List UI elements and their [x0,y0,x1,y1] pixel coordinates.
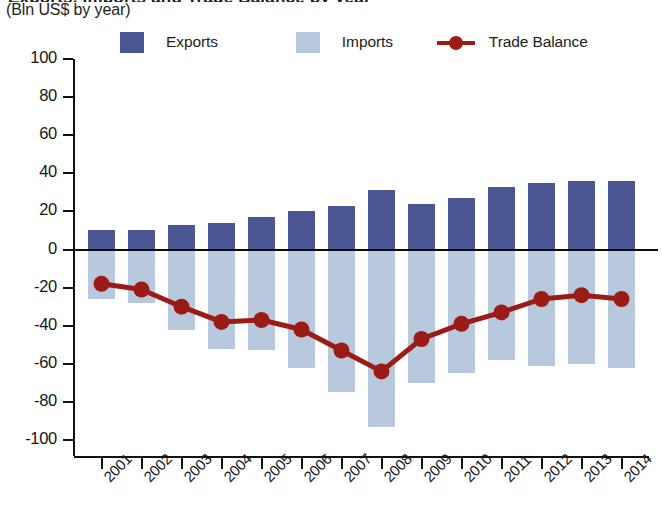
trade-balance-point[interactable] [294,322,310,338]
legend-item-exports[interactable]: Exports [120,32,218,53]
trade-balance-point[interactable] [534,291,550,307]
chart-root: Exports, Imports and Trade Balance by ye… [0,0,662,507]
x-axis-tick [421,458,423,469]
trade-balance-point[interactable] [374,363,390,379]
trade-balance-point[interactable] [494,304,510,320]
chart-subtitle: (Bln US$ by year) [6,1,131,19]
chart-legend: ExportsImportsTrade Balance [120,30,588,54]
x-axis-tick [341,458,343,469]
trade-balance-point[interactable] [134,282,150,298]
trade-balance-point[interactable] [214,314,230,330]
x-axis-tick [621,458,623,469]
trade-balance-point[interactable] [614,291,630,307]
legend-swatch-exports [120,32,144,53]
legend-label: Imports [342,33,393,51]
x-axis-tick [301,458,303,469]
trade-balance-series [0,52,662,507]
legend-line-dot [449,36,463,50]
x-axis-tick [581,458,583,469]
legend-item-imports[interactable]: Imports [296,32,393,53]
x-axis-tick [101,458,103,469]
legend-item-trade-balance[interactable]: Trade Balance [437,32,588,53]
plot-area: 100806040200-20-40-60-80-100200120022003… [0,52,662,507]
x-axis-tick [261,458,263,469]
x-axis-tick [181,458,183,469]
trade-balance-point[interactable] [254,312,270,328]
x-axis-tick [141,458,143,469]
trade-balance-point[interactable] [94,276,110,292]
x-axis-tick [541,458,543,469]
trade-balance-point[interactable] [574,287,590,303]
legend-label: Exports [166,33,218,51]
legend-swatch-imports [296,32,320,53]
trade-balance-point[interactable] [334,343,350,359]
trade-balance-point[interactable] [454,316,470,332]
y-axis-lower-stub [73,440,75,456]
trade-balance-point[interactable] [174,299,190,315]
trade-balance-point[interactable] [414,331,430,347]
x-axis-tick [501,458,503,469]
legend-label: Trade Balance [489,33,588,51]
x-axis-tick [461,458,463,469]
x-axis-tick [381,458,383,469]
x-axis-tick [221,458,223,469]
legend-line-marker-icon [437,32,475,53]
